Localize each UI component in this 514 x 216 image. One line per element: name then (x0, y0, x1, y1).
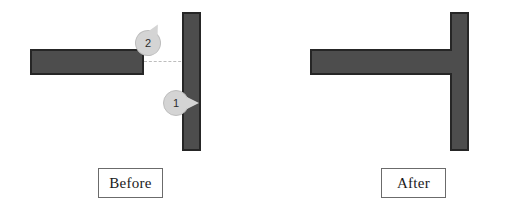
diagram-canvas: 2 1 Before After (0, 0, 514, 216)
callout-label-1: 1 (173, 97, 179, 109)
before-vertical-bar[interactable] (182, 12, 201, 151)
after-horizontal-bar[interactable] (310, 49, 457, 75)
callout-label-2: 2 (136, 31, 160, 55)
after-vertical-bar[interactable] (450, 12, 469, 151)
callout-tail-icon (187, 97, 199, 109)
alignment-dashed-line (144, 61, 186, 62)
after-junction-patch (450, 51, 456, 73)
panel-after: After (257, 0, 514, 216)
panel-before: 2 1 Before (0, 0, 257, 216)
callout-balloon-1[interactable]: 1 (163, 90, 189, 116)
caption-after: After (381, 168, 446, 198)
caption-before: Before (98, 168, 163, 198)
before-horizontal-bar[interactable] (30, 49, 144, 75)
